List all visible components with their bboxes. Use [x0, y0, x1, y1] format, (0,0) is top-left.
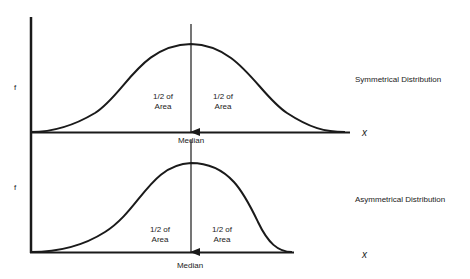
top-panel-title: Symmetrical Distribution	[355, 75, 441, 85]
top-right-area-label-1: 1/2 of	[213, 92, 233, 102]
top-left-area-label-2: Area	[155, 102, 172, 112]
bottom-y-label: f	[14, 183, 16, 193]
bottom-right-area-label-1: 1/2 of	[212, 225, 232, 235]
diagram-canvas	[0, 0, 470, 279]
top-right-area-label-2: Area	[215, 102, 232, 112]
top-median-label: Median	[178, 136, 204, 146]
top-left-area-label-1: 1/2 of	[153, 92, 173, 102]
bottom-x-label: x	[362, 250, 367, 260]
top-x-label: x	[362, 128, 367, 138]
top-y-label: f	[14, 83, 16, 93]
bottom-right-area-label-2: Area	[214, 235, 231, 245]
bottom-median-label: Median	[177, 261, 203, 271]
symmetrical-curve	[31, 44, 345, 132]
bottom-left-area-label-1: 1/2 of	[150, 225, 170, 235]
bottom-panel-title: Asymmetrical Distribution	[355, 195, 445, 205]
bottom-left-area-label-2: Area	[152, 235, 169, 245]
